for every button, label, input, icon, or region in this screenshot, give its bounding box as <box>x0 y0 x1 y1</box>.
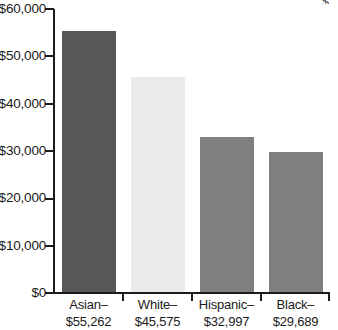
x-axis-label-black-value: $29,689 <box>261 314 330 330</box>
x-axis-label-hispanic: Hispanic– $32,997 <box>192 297 261 330</box>
bar-chart: $ $60,000 $50,000 $40,000 $30,000 $20,00… <box>0 0 338 330</box>
bar-black[interactable] <box>269 152 323 293</box>
x-axis-label-asian: Asian– $55,262 <box>54 297 123 330</box>
y-axis-label-50000: $50,000 <box>0 49 46 63</box>
y-axis-label-60000: $60,000 <box>0 2 46 16</box>
y-axis-label-30000: $30,000 <box>0 144 46 158</box>
y-axis-label-40000: $40,000 <box>0 97 46 111</box>
bar-asian[interactable] <box>62 31 116 293</box>
x-axis-label-hispanic-category: Hispanic– <box>192 297 261 314</box>
x-axis-label-white-value: $45,575 <box>123 314 192 330</box>
y-axis-line <box>53 9 55 294</box>
y-axis-label-20000: $20,000 <box>0 191 46 205</box>
x-axis-label-white-category: White– <box>123 297 192 314</box>
page-edge-artifact: $ <box>322 0 329 4</box>
x-axis-label-asian-value: $55,262 <box>54 314 123 330</box>
x-axis-label-white: White– $45,575 <box>123 297 192 330</box>
x-axis-label-black-category: Black– <box>261 297 330 314</box>
bar-hispanic[interactable] <box>200 137 254 293</box>
x-axis-label-hispanic-value: $32,997 <box>192 314 261 330</box>
y-axis-label-0: $0 <box>0 286 46 300</box>
x-axis-label-asian-category: Asian– <box>54 297 123 314</box>
y-axis-label-10000: $10,000 <box>0 239 46 253</box>
bar-white[interactable] <box>131 77 185 293</box>
x-axis-label-black: Black– $29,689 <box>261 297 330 330</box>
